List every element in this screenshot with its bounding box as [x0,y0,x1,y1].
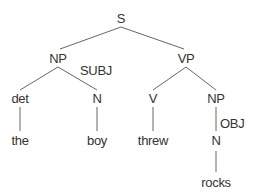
node-vp: VP [178,52,195,66]
edge-np-det [20,67,58,90]
word-boy: boy [87,134,107,148]
node-np-subject: NP [49,52,66,66]
function-label-obj: OBJ [220,117,244,131]
node-det: det [11,92,28,106]
node-v: V [149,92,157,106]
word-rocks: rocks [201,176,231,190]
word-the: the [11,134,28,148]
node-np-object: NP [207,92,224,106]
edge-s-np [60,27,121,49]
edge-vp-np [186,67,216,90]
edge-vp-v [153,67,186,90]
node-n-boy: N [92,92,101,106]
edge-s-vp [121,27,184,49]
function-label-subj: SUBJ [80,64,112,78]
node-n-rocks: N [211,134,220,148]
word-threw: threw [138,134,168,148]
node-s: S [117,12,125,26]
